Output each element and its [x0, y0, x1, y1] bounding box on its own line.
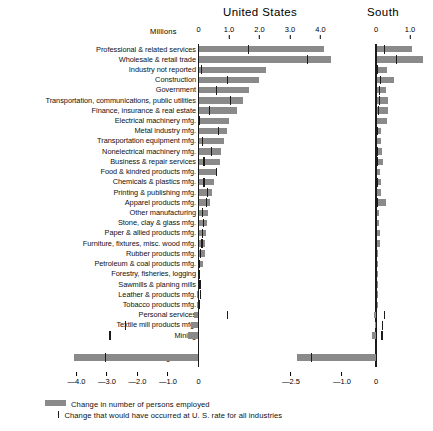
chart-row: Construction	[0, 75, 340, 85]
reference-rate-mark	[311, 353, 312, 362]
reference-rate-mark	[377, 157, 378, 166]
reference-rate-mark	[216, 168, 217, 177]
data-bar	[377, 56, 423, 62]
reference-rate-mark	[376, 290, 377, 299]
chart-row	[340, 106, 433, 116]
reference-rate-mark	[230, 96, 231, 105]
reference-rate-mark	[380, 76, 381, 85]
category-label: Professional & related services	[96, 45, 196, 55]
data-bar	[74, 354, 198, 360]
reference-rate-mark	[376, 229, 377, 238]
chart-row	[340, 259, 433, 269]
reference-rate-mark	[203, 178, 204, 187]
chart-row: Transportation equipment mfg.	[0, 136, 340, 146]
chart-row	[340, 249, 433, 259]
legend-entry-reference-label: Change that would have occurred at U. S.…	[64, 411, 282, 420]
data-bar	[199, 179, 214, 185]
reference-rate-mark	[203, 157, 204, 166]
reference-rate-mark	[200, 290, 201, 299]
data-bar	[197, 291, 198, 297]
top-axis-south: 01.0	[0, 26, 433, 42]
chart-row: Tobacco products mfg.	[0, 300, 340, 310]
data-bar	[375, 322, 376, 328]
category-label: Stone, clay & glass mfg.	[118, 218, 196, 228]
reference-rate-mark	[199, 280, 200, 289]
reference-rate-mark	[376, 116, 377, 125]
reference-rate-mark	[201, 65, 202, 74]
reference-rate-mark	[382, 321, 383, 330]
chart-row: Electrical machinery mfg.	[0, 116, 340, 126]
reference-rate-mark	[105, 353, 106, 362]
category-label: Industry not reported	[129, 65, 196, 75]
category-label: Paper & allied products mfg.	[105, 228, 196, 238]
category-label: Transportation, communications, public u…	[45, 96, 196, 106]
bottom-axis-south: —2.5—1.00	[0, 372, 433, 390]
reference-rate-mark	[379, 86, 380, 95]
reference-rate-mark	[376, 168, 377, 177]
chart-row: Chemicals & plastics mfg.	[0, 177, 340, 187]
axis-tick-south-bottom: —2.5	[282, 372, 300, 386]
reference-rate-mark	[199, 270, 200, 279]
axis-tick-label: —1.0	[333, 377, 351, 386]
reference-rate-mark	[377, 65, 378, 74]
chart-row	[340, 65, 433, 75]
data-bar	[199, 56, 331, 62]
axis-tick-south-bottom: —1.0	[333, 372, 351, 386]
data-bar	[194, 312, 198, 318]
chart-row: Sawmills & planing mills	[0, 280, 340, 290]
reference-rate-mark	[207, 188, 208, 197]
chart-row	[340, 116, 433, 126]
chart-row	[340, 177, 433, 187]
category-label: Personal services	[139, 310, 196, 320]
reference-rate-mark	[376, 249, 377, 258]
data-bar	[199, 107, 237, 113]
reference-rate-mark	[376, 137, 377, 146]
category-label: Metal industry mfg.	[135, 126, 196, 136]
reference-rate-mark	[307, 55, 308, 64]
chart-row	[340, 218, 433, 228]
chart-row: Other manufacturing	[0, 208, 340, 218]
chart-row: Food & kindred products mfg.	[0, 167, 340, 177]
data-bar	[377, 138, 382, 144]
chart-row	[340, 55, 433, 65]
reference-rate-mark	[227, 76, 228, 85]
reference-rate-mark	[376, 178, 377, 187]
data-bar	[377, 199, 386, 205]
category-label: Printing & publishing mfg.	[113, 188, 196, 198]
category-label: Chemicals & plastics mfg.	[113, 177, 196, 187]
axis-tick-south-top: 0	[374, 26, 378, 39]
data-bar	[199, 159, 220, 165]
category-label: Forestry, fisheries, logging	[111, 269, 196, 279]
category-label: Electrical machinery mfg.	[115, 116, 196, 126]
category-label: Transportation equipment mfg.	[97, 136, 196, 146]
legend-entry-reference: Change that would have occurred at U. S.…	[56, 411, 282, 420]
reference-rate-mark	[202, 137, 203, 146]
chart-row: Rubber products mfg.	[0, 249, 340, 259]
chart-row	[340, 147, 433, 157]
panel-title-united-states: United States	[223, 6, 297, 18]
category-label: Rubber products mfg.	[126, 249, 196, 259]
reference-rate-mark	[201, 239, 202, 248]
chart-row: Wholesale & retail trade	[0, 55, 340, 65]
reference-rate-mark	[376, 239, 377, 248]
chart-row	[340, 320, 433, 330]
chart-row	[340, 188, 433, 198]
chart-row	[340, 300, 433, 310]
legend-entry-bar: Change in number of persons employed	[45, 400, 210, 409]
chart-row	[340, 290, 433, 300]
axis-tick-label: 1.0	[405, 26, 415, 34]
chart-row: Finance, insurance & real estate	[0, 106, 340, 116]
chart-row: Mining	[0, 331, 340, 341]
reference-rate-mark	[384, 311, 385, 320]
category-label: Finance, insurance & real estate	[92, 106, 196, 116]
chart-row: Industry not reported	[0, 65, 340, 75]
data-bar	[377, 46, 413, 52]
data-bar	[377, 189, 381, 195]
reference-rate-mark	[379, 96, 380, 105]
category-label: Government	[156, 85, 196, 95]
chart-row	[340, 136, 433, 146]
data-bar	[199, 67, 266, 73]
legend-bar-swatch-icon	[45, 400, 66, 406]
panel-title-south: South	[367, 6, 399, 18]
chart-row	[340, 96, 433, 106]
